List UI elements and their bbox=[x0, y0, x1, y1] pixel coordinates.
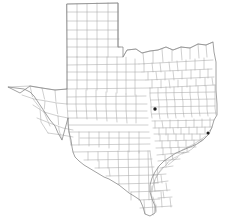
map-canvas bbox=[0, 0, 226, 224]
texas-county-map: Texas County Map bbox=[0, 0, 226, 224]
marker-upper-coast[interactable] bbox=[207, 132, 210, 135]
marker-central-east[interactable] bbox=[153, 107, 156, 110]
